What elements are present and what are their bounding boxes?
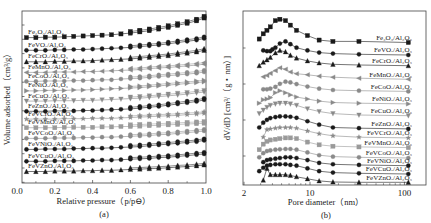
data-point-marker: [257, 155, 261, 159]
data-point-marker: [119, 124, 123, 128]
data-point-marker: [317, 131, 322, 136]
data-point-marker: [273, 46, 277, 50]
data-point-marker: [202, 150, 206, 154]
data-point-marker: [119, 145, 123, 149]
data-point-marker: [147, 74, 151, 78]
data-point-marker: [283, 155, 287, 159]
data-point-marker: [185, 38, 189, 42]
data-point-marker: [357, 89, 361, 93]
data-point-marker: [157, 131, 161, 135]
data-point-marker: [305, 140, 309, 144]
data-point-marker: [305, 150, 309, 154]
series-label: FeVCoOₓ/Al₂O₃: [28, 129, 75, 137]
data-point-marker: [357, 145, 361, 149]
data-point-marker: [109, 33, 113, 37]
data-point-marker: [257, 169, 261, 173]
series-label: FeNiOₓ/Al₂O₃: [28, 81, 69, 89]
data-point-marker: [273, 162, 277, 166]
data-point-marker: [176, 39, 180, 43]
data-point-marker: [283, 67, 288, 72]
data-point-marker: [72, 79, 76, 83]
x-tick-label: 100: [398, 188, 412, 198]
data-point-marker: [109, 146, 113, 150]
data-point-marker: [277, 66, 282, 71]
data-point-marker: [176, 71, 180, 75]
data-point-marker: [294, 95, 299, 100]
data-point-marker: [194, 138, 198, 142]
data-point-marker: [157, 73, 161, 77]
data-point-marker: [305, 166, 309, 170]
data-point-marker: [119, 86, 124, 91]
data-point-marker: [288, 163, 292, 167]
data-point-marker: [91, 78, 95, 82]
figure: 0.00.20.40.60.81.0 Fe₂O₃/Al₂O₃FeVOₓ/Al₂O…: [0, 0, 431, 223]
data-point-marker: [202, 96, 206, 100]
data-point-marker: [305, 128, 310, 133]
data-point-marker: [119, 107, 123, 111]
series-label: FeMnOₓ/Al₂O₃: [369, 71, 412, 79]
data-point-marker: [81, 47, 85, 51]
data-point-marker: [185, 152, 189, 156]
series-label: FeCuOₓ/Al₂O₃: [371, 107, 413, 115]
data-point-marker: [278, 162, 282, 166]
data-point-marker: [317, 161, 321, 165]
data-point-marker: [288, 115, 292, 119]
data-point-marker: [305, 158, 309, 162]
data-point-marker: [283, 39, 287, 43]
data-point-marker: [194, 36, 198, 40]
data-point-marker: [118, 68, 123, 73]
data-point-marker: [288, 53, 293, 58]
series-label: FeVNiOₓ/Al₂O₃: [28, 140, 74, 148]
data-point-marker: [81, 125, 85, 129]
data-point-marker: [273, 85, 277, 89]
series-label: FeVMnOₓ/Al₂O₃: [28, 118, 76, 126]
data-point-marker: [268, 148, 272, 152]
panel-b-y-axis-title: dV/dD [cm³/（g・nm）]: [222, 56, 232, 140]
data-point-marker: [330, 133, 335, 138]
data-point-marker: [119, 158, 123, 162]
data-point-marker: [81, 34, 85, 38]
series-label: FeVMnOₓ/Al₂O₃: [364, 139, 412, 147]
data-point-marker: [261, 135, 266, 140]
data-point-marker: [278, 88, 283, 93]
data-point-marker: [91, 108, 95, 112]
x-tick-label: 0.8: [163, 186, 175, 196]
series-label: FeNiOₓ/Al₂O₃: [372, 95, 413, 103]
data-point-marker: [357, 101, 362, 106]
data-point-marker: [273, 157, 277, 161]
data-point-marker: [283, 125, 288, 130]
series-label: FeVNiOₓ/Al₂O₃: [367, 157, 413, 165]
series-label: FeVCuOₓ/Al₂O₃: [28, 152, 75, 160]
data-point-marker: [283, 80, 287, 84]
data-point-marker: [357, 155, 361, 159]
data-point-marker: [157, 122, 161, 126]
data-point-marker: [294, 56, 299, 61]
data-point-marker: [288, 80, 292, 84]
data-point-marker: [261, 48, 265, 52]
data-point-marker: [273, 19, 277, 23]
panel-a-caption: (a): [99, 209, 109, 219]
data-point-marker: [278, 82, 282, 86]
data-point-marker: [81, 79, 85, 83]
data-point-marker: [109, 46, 113, 50]
x-tick-label: 0.6: [125, 186, 137, 196]
data-point-marker: [278, 17, 282, 21]
data-point-marker: [331, 100, 336, 105]
panel-a-x-axis-title: Relative pressure（p/p⊖）: [57, 196, 152, 206]
data-point-marker: [305, 48, 309, 52]
data-point-marker: [194, 98, 198, 102]
data-point-marker: [176, 22, 180, 26]
data-point-marker: [100, 116, 105, 121]
data-point-marker: [317, 123, 321, 127]
data-point-marker: [202, 68, 206, 72]
data-point-marker: [202, 137, 206, 141]
data-point-marker: [277, 125, 282, 130]
data-point-marker: [202, 35, 206, 39]
data-point-marker: [283, 114, 287, 118]
data-point-marker: [72, 34, 76, 38]
data-point-marker: [34, 36, 38, 40]
data-point-marker: [128, 133, 132, 137]
data-point-marker: [288, 155, 292, 159]
data-point-marker: [278, 147, 282, 151]
data-point-marker: [357, 163, 361, 167]
